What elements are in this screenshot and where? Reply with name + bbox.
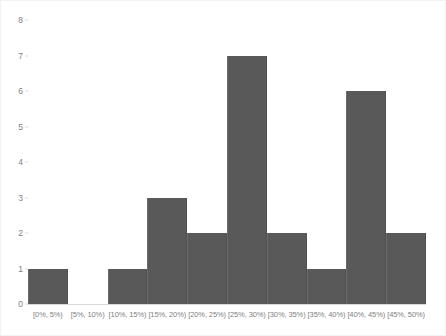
bar[interactable]: [386, 233, 426, 304]
bar-slot: [386, 20, 426, 304]
y-axis-tick-label: 7: [18, 51, 28, 60]
bar[interactable]: [346, 91, 386, 304]
x-axis-tick-label: [25%, 30%): [227, 311, 267, 319]
y-axis-tick-label: 1: [18, 264, 28, 273]
plot-area: 012345678: [28, 20, 426, 304]
x-axis-tick-label: [30%, 35%): [267, 311, 307, 319]
y-axis-tick-label: 8: [18, 16, 28, 25]
x-axis-tick-group: [0%, 5%)[5%, 10%)[10%, 15%)[15%, 20%)[20…: [28, 311, 426, 319]
bar[interactable]: [267, 233, 307, 304]
bar-slot: [68, 20, 108, 304]
y-axis-tick-label: 2: [18, 229, 28, 238]
x-axis-tick-label: [20%, 25%): [187, 311, 227, 319]
bar[interactable]: [28, 269, 68, 305]
x-axis-tick-label: [5%, 10%): [68, 311, 108, 319]
histogram-chart: 012345678 [0%, 5%)[5%, 10%)[10%, 15%)[15…: [0, 0, 446, 336]
bar[interactable]: [187, 233, 227, 304]
y-axis-tick-label: 5: [18, 122, 28, 131]
y-axis-tick-label: 3: [18, 193, 28, 202]
x-axis-tick-label: [15%, 20%): [147, 311, 187, 319]
bar[interactable]: [147, 198, 187, 305]
x-axis-line: [28, 304, 426, 305]
x-axis-tick-label: [0%, 5%): [28, 311, 68, 319]
bar-slot: [108, 20, 148, 304]
y-axis-tick-label: 4: [18, 158, 28, 167]
x-axis-tick-label: [35%, 40%): [307, 311, 347, 319]
bar-slot: [187, 20, 227, 304]
y-axis-tick-label: 0: [18, 300, 28, 309]
bar-slot: [346, 20, 386, 304]
x-axis-tick-label: [45%, 50%): [386, 311, 426, 319]
bar[interactable]: [307, 269, 347, 305]
x-axis-tick-label: [40%, 45%): [346, 311, 386, 319]
bar[interactable]: [108, 269, 148, 305]
bar-slot: [147, 20, 187, 304]
bar-slot: [227, 20, 267, 304]
bar-slot: [307, 20, 347, 304]
x-axis-tick-label: [10%, 15%): [108, 311, 148, 319]
y-axis-tick-label: 6: [18, 87, 28, 96]
bar-group: [28, 20, 426, 304]
bar-slot: [267, 20, 307, 304]
bar[interactable]: [227, 56, 267, 305]
bar-slot: [28, 20, 68, 304]
